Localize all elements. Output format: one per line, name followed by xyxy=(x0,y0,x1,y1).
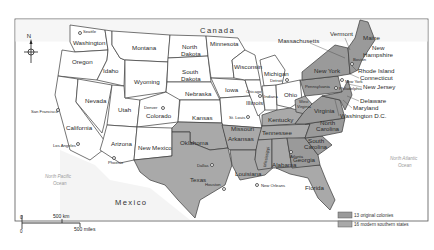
label-atlantic-1: North Atlantic xyxy=(390,156,418,161)
city-dallas-marker xyxy=(211,164,214,167)
label-new-orleans: New Orleans xyxy=(261,183,285,188)
label-kentucky: Kentucky xyxy=(268,116,294,123)
label-minnesota: Minnesota xyxy=(210,40,239,47)
label-canada: Canada xyxy=(200,26,235,35)
label-indiana: Indiana xyxy=(264,94,278,99)
label-montana: Montana xyxy=(132,44,157,51)
label-delaware: Delaware xyxy=(360,97,387,104)
scale-zero-miles: 0 xyxy=(20,229,23,234)
label-pacific-2: Ocean xyxy=(53,181,67,186)
label-pacific-1: North Pacific xyxy=(45,174,72,179)
city-new-york-marker xyxy=(341,79,344,82)
city-houston-marker xyxy=(223,188,226,191)
label-rhode-island: Rhode Island xyxy=(358,67,395,74)
city-st-louis-marker xyxy=(247,116,250,119)
label-dallas: Dallas xyxy=(197,163,209,168)
label-idaho: Idaho xyxy=(103,67,119,74)
legend-label-southern: 16 modern southern states xyxy=(354,222,409,227)
label-oregon: Oregon xyxy=(72,58,93,65)
label-new-hampshire-2: Hampshire xyxy=(363,51,393,58)
label-kansas: Kansas xyxy=(192,114,213,121)
label-new-york-city: New York xyxy=(345,79,364,84)
label-texas: Texas xyxy=(190,176,206,183)
label-mexico: Mexico xyxy=(115,198,147,207)
label-north-dakota-2: Dakota xyxy=(181,50,201,57)
label-missouri: Missouri xyxy=(231,125,254,132)
label-massachusetts: Massachusetts xyxy=(278,37,319,44)
label-south-carolina-2: Carolina xyxy=(304,143,328,150)
label-pennsylvania: Pennsylvania xyxy=(305,84,331,89)
scale-km-label: 500 km xyxy=(53,213,69,219)
label-maryland: Maryland xyxy=(353,104,379,111)
label-north-dakota-1: North xyxy=(182,43,198,50)
label-san-francisco: San Francisco xyxy=(31,109,58,114)
label-california: California xyxy=(66,124,93,131)
label-oklahoma: Oklahoma xyxy=(180,139,209,146)
label-new-jersey: New Jersey xyxy=(363,83,396,90)
label-vermont: Vermont xyxy=(330,30,353,37)
label-atlantic-2: Ocean xyxy=(398,163,412,168)
city-boston-marker xyxy=(351,63,354,66)
label-ohio: Ohio xyxy=(284,91,298,98)
label-virginia: Virginia xyxy=(314,107,335,114)
city-seattle-marker xyxy=(79,32,82,35)
label-nevada: Nevada xyxy=(85,97,107,104)
label-north-carolina-2: Carolina xyxy=(316,125,340,132)
label-chicago: Chicago xyxy=(246,89,262,94)
label-utah: Utah xyxy=(118,106,132,113)
label-detroit: Detroit xyxy=(270,78,283,83)
label-new-mexico: New Mexico xyxy=(138,144,172,151)
us-map: Canada Mexico North Pacific Ocean North … xyxy=(0,0,434,250)
label-florida: Florida xyxy=(305,184,324,191)
label-atlanta: Atlanta xyxy=(290,154,304,159)
label-michigan: Michigan xyxy=(264,70,289,77)
label-connecticut: Connecticut xyxy=(360,74,393,81)
compass-north-label: N xyxy=(27,33,31,39)
label-south-dakota-2: Dakota xyxy=(181,75,201,82)
city-denver-marker xyxy=(162,107,165,110)
label-phoenix: Phoenix xyxy=(108,160,124,165)
label-houston: Houston xyxy=(205,182,221,187)
label-louisiana: Louisiana xyxy=(235,170,262,177)
label-washington: Washington xyxy=(73,39,106,46)
label-st-louis: St. Louis xyxy=(229,115,245,120)
label-seattle: Seattle xyxy=(83,29,97,34)
legend-swatch-colonies xyxy=(338,212,352,218)
label-los-angeles: Los Angeles xyxy=(53,143,76,148)
scale-miles-label: 500 miles xyxy=(74,226,96,232)
label-tennessee: Tennessee xyxy=(262,129,292,136)
label-nebraska: Nebraska xyxy=(185,90,212,97)
label-maine: Maine xyxy=(363,34,380,41)
label-arkansas: Arkansas xyxy=(228,135,254,142)
label-arizona: Arizona xyxy=(111,140,133,147)
label-washington-dc: Washington D.C. xyxy=(340,112,387,119)
legend-swatch-southern xyxy=(338,221,352,227)
label-iowa: Iowa xyxy=(225,86,239,93)
city-new-orleans-marker xyxy=(256,184,259,187)
label-colorado: Colorado xyxy=(146,112,172,119)
label-new-york: New York xyxy=(314,67,341,74)
label-west-virginia-2: Virginia xyxy=(297,104,312,109)
city-los-angeles-marker xyxy=(77,143,80,146)
label-boston: Boston xyxy=(353,57,367,62)
label-wisconsin: Wisconsin xyxy=(234,63,263,70)
city-philadelphia-marker xyxy=(335,87,338,90)
label-new-hampshire-1: New xyxy=(372,44,385,51)
label-south-dakota-1: South xyxy=(182,68,199,75)
label-denver: Denver xyxy=(144,105,158,110)
label-illinois: Illinois xyxy=(246,99,263,106)
legend-label-colonies: 13 original colonies xyxy=(354,213,394,218)
city-chicago-marker xyxy=(259,95,262,98)
label-philadelphia: Philadelphia xyxy=(339,86,362,91)
label-wyoming: Wyoming xyxy=(134,78,160,85)
city-detroit-marker xyxy=(286,79,289,82)
